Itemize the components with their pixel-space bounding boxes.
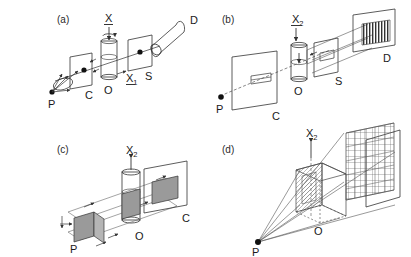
source-label-p: P	[70, 243, 77, 255]
object-label-o: O	[104, 84, 113, 96]
collimator-label-c: C	[272, 110, 280, 122]
schematic-figure: (a) X O X1 C	[0, 0, 411, 257]
panel-c-label: (c)	[57, 144, 69, 155]
detector-label-d: D	[383, 52, 391, 64]
source-label-p: P	[216, 103, 223, 115]
collimator-aperture-dot	[81, 67, 86, 72]
slit-label-s: S	[335, 75, 342, 87]
source-label-p: P	[252, 246, 259, 257]
detector-label-d: D	[190, 14, 198, 26]
panel-c-object-slab	[122, 189, 140, 219]
collimator-label-c: C	[85, 89, 93, 101]
panel-a-label: (a)	[57, 14, 69, 25]
point-source-dot	[255, 239, 261, 245]
panel-b-label: (b)	[222, 14, 234, 25]
slit-aperture-dot	[137, 49, 142, 54]
grating-stripes	[362, 20, 390, 45]
figure-container: (a) X O X1 C	[0, 0, 411, 257]
point-source-dot	[218, 94, 224, 100]
slit-label-s: S	[145, 70, 152, 82]
panel-d-label: (d)	[222, 144, 234, 155]
object-label-o: O	[294, 85, 303, 97]
axis-x-label: X	[105, 12, 113, 24]
object-label-o: O	[314, 225, 323, 237]
collimator-label-c: C	[182, 212, 190, 224]
object-label-o: O	[135, 230, 144, 242]
source-label-p: P	[48, 98, 55, 110]
